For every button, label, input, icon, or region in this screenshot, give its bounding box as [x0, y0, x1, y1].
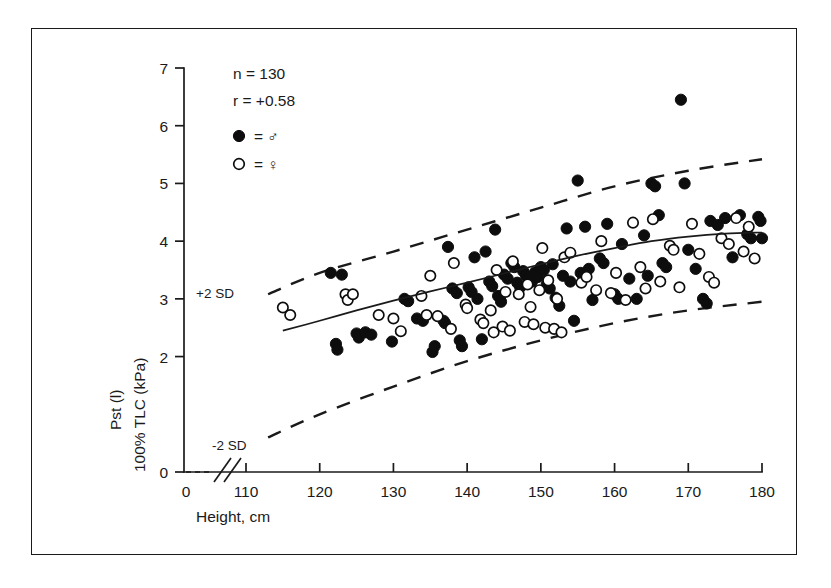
- data-point-male-21: [456, 341, 467, 352]
- data-point-female-5: [373, 310, 383, 320]
- x-tick-label-110: 110: [234, 483, 259, 500]
- data-point-male-63: [602, 218, 613, 229]
- x-tick-label-130: 130: [380, 483, 406, 500]
- data-point-female-56: [446, 324, 456, 334]
- data-point-female-20: [508, 256, 518, 266]
- data-point-male-67: [624, 273, 635, 284]
- data-point-male-90: [755, 215, 766, 226]
- data-point-female-42: [648, 214, 658, 224]
- data-point-female-55: [749, 253, 759, 263]
- data-point-male-77: [679, 178, 690, 189]
- data-point-male-25: [472, 293, 483, 304]
- data-point-female-59: [556, 327, 566, 337]
- data-point-female-14: [478, 318, 488, 328]
- y-axis-ticks: 0234567: [159, 60, 184, 481]
- y-tick-label-3: 3: [159, 291, 168, 308]
- x-tick-label-170: 170: [675, 483, 701, 500]
- data-point-male-26: [476, 334, 487, 345]
- y-tick-label-5: 5: [159, 175, 168, 192]
- lower-sd-curve: [268, 302, 762, 438]
- data-point-male-56: [572, 175, 583, 186]
- data-point-female-60: [581, 272, 591, 282]
- data-point-female-15: [486, 305, 496, 315]
- data-point-female-47: [694, 249, 704, 259]
- x-tick-label-0: 0: [182, 483, 191, 500]
- data-point-female-30: [552, 294, 562, 304]
- data-point-female-21: [514, 289, 524, 299]
- data-point-female-34: [591, 285, 601, 295]
- x-tick-label-120: 120: [307, 483, 333, 500]
- x-axis-ticks: 1101201301401501601701800: [182, 463, 776, 500]
- data-point-male-54: [565, 276, 576, 287]
- label-layer: n = 130 r = +0.58 = ♂ = ♀ +2 SD -2 SD He…: [107, 65, 295, 525]
- data-point-male-53: [561, 223, 572, 234]
- data-point-female-49: [709, 278, 719, 288]
- upper-sd-label: +2 SD: [196, 286, 234, 301]
- data-point-male-19: [451, 287, 462, 298]
- data-point-male-84: [720, 212, 731, 223]
- data-point-male-72: [650, 181, 661, 192]
- data-point-male-75: [661, 262, 672, 273]
- data-point-female-19: [505, 325, 515, 335]
- data-point-female-45: [668, 245, 678, 255]
- data-point-female-28: [543, 275, 553, 285]
- data-point-male-78: [683, 244, 694, 255]
- data-point-female-23: [522, 279, 532, 289]
- data-point-female-24: [528, 319, 538, 329]
- data-point-male-85: [727, 252, 738, 263]
- data-point-male-58: [579, 221, 590, 232]
- data-point-female-12: [462, 303, 472, 313]
- data-points-layer: [278, 94, 768, 357]
- data-point-female-26: [537, 243, 547, 253]
- data-point-female-10: [449, 258, 459, 268]
- data-point-female-54: [744, 222, 754, 232]
- axis-layer: 0234567 1101201301401501601701800: [159, 60, 775, 500]
- data-point-female-4: [348, 289, 358, 299]
- data-point-male-68: [631, 293, 642, 304]
- data-point-male-30: [490, 224, 501, 235]
- x-tick-label-150: 150: [528, 483, 554, 500]
- data-point-female-41: [640, 283, 650, 293]
- data-point-male-24: [469, 252, 480, 263]
- y-tick-label-7: 7: [159, 60, 168, 77]
- x-axis-title: Height, cm: [196, 508, 270, 525]
- data-point-male-79: [690, 263, 701, 274]
- scatter-chart: 0234567 1101201301401501601701800 n = 13…: [0, 0, 831, 588]
- data-point-female-52: [731, 213, 741, 223]
- data-point-male-29: [487, 281, 498, 292]
- legend-male-marker: [233, 130, 244, 141]
- axis-break-slash-1: [214, 458, 231, 482]
- data-point-male-69: [638, 230, 649, 241]
- x-tick-label-140: 140: [454, 483, 480, 500]
- data-point-female-51: [724, 239, 734, 249]
- x-tick-label-180: 180: [749, 483, 775, 500]
- data-point-male-62: [598, 257, 609, 268]
- y-axis-title-line1: Pst (l): [107, 390, 124, 430]
- data-point-female-37: [611, 268, 621, 278]
- data-point-female-38: [620, 295, 630, 305]
- data-point-female-1: [285, 310, 295, 320]
- data-point-female-39: [628, 217, 638, 227]
- data-point-male-91: [756, 233, 767, 244]
- data-point-female-57: [425, 271, 435, 281]
- data-point-female-18: [500, 287, 510, 297]
- data-point-female-58: [396, 326, 406, 336]
- data-point-male-8: [386, 336, 397, 347]
- data-point-female-63: [525, 302, 535, 312]
- data-point-female-40: [635, 262, 645, 272]
- data-point-female-61: [674, 282, 684, 292]
- data-point-male-76: [675, 94, 686, 105]
- data-point-female-35: [596, 236, 606, 246]
- y-tick-label-2: 2: [159, 349, 168, 366]
- data-point-male-1: [336, 269, 347, 280]
- data-point-female-25: [534, 285, 544, 295]
- n-label: n = 130: [233, 65, 286, 82]
- y-tick-label-6: 6: [159, 118, 168, 135]
- data-point-male-3: [332, 344, 343, 355]
- data-point-male-55: [568, 315, 579, 326]
- data-point-female-53: [738, 246, 748, 256]
- axis-break-slash-2: [224, 458, 241, 482]
- y-axis-title-line2: 100% TLC (kPa): [131, 358, 148, 472]
- data-point-female-62: [488, 327, 498, 337]
- data-point-male-7: [366, 329, 377, 340]
